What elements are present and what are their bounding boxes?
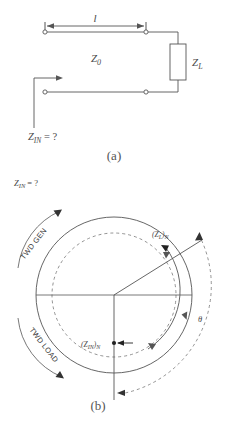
terminal-bottom-left [43,90,47,94]
angle-label: θ [198,314,202,324]
toward-generator-indicator: TWD GEN [18,210,62,269]
terminal-top-right [144,30,148,34]
terminal-top-left [43,30,47,34]
rotation-arc-arrow-mid [181,311,189,320]
transmission-line-smith-chart-figure: l ZL Z0 ZIN [0,0,228,430]
rotation-arc-arrow-top [163,252,170,259]
load-point-group: (ZL)N [152,230,170,252]
leader-arrow [56,75,63,81]
input-impedance-leader [34,75,63,128]
load-point-label: (ZL)N [152,230,170,240]
load-impedance: ZL [170,44,203,92]
characteristic-impedance-label: Z0 [91,52,101,67]
angle-arc-arrow-top [195,232,203,241]
angle-arc-arrow-bottom [117,390,125,396]
input-point-group: (ZIN)N [81,340,133,350]
length-dimension: l [45,12,146,30]
input-point-label: (ZIN)N [81,340,101,350]
panel-b-smith-chart: ZIN = ? (ZL)N (ZIN)N [14,178,211,413]
input-point-arrow [117,340,124,346]
dimension-arrow-right [137,23,144,29]
terminal-bottom-right [144,90,148,94]
caption-a: (a) [107,148,121,163]
input-impedance-label-b: ZIN = ? [14,178,38,189]
length-label: l [93,12,96,24]
top-conductor [43,30,178,44]
toward-load-arc [18,318,62,377]
dimension-arrow-left [47,23,54,29]
panel-a-circuit: l ZL Z0 ZIN [28,12,203,163]
load-box [170,44,186,80]
radial-line-to-load [114,240,202,295]
caption-b: (b) [90,398,105,413]
input-point-marker [112,341,116,345]
toward-load-label: TWD LOAD [27,326,60,365]
bottom-conductor [43,90,178,94]
rotation-arc-toward-generator [148,248,180,349]
input-impedance-label-a: ZIN = ? [28,131,58,145]
load-impedance-label: ZL [192,56,203,71]
